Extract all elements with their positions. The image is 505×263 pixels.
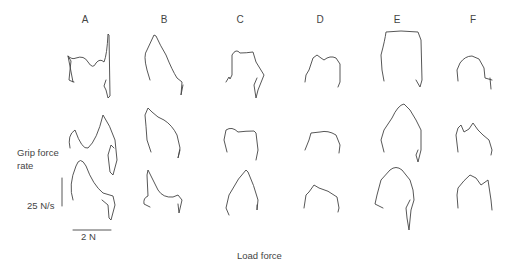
trace-e1: [381, 31, 422, 87]
force-traces: [0, 0, 505, 263]
trace-d1: [305, 55, 340, 87]
trace-a1: [68, 34, 110, 98]
trace-c1: [226, 51, 264, 98]
trace-a3: [71, 161, 115, 221]
trace-d2: [305, 131, 340, 153]
trace-c3: [226, 170, 258, 215]
trace-e3: [375, 168, 414, 231]
trace-f2: [456, 123, 492, 155]
trace-d3: [304, 185, 339, 212]
trace-f3: [457, 175, 492, 210]
trace-c2: [224, 128, 258, 160]
trace-b1: [145, 35, 183, 95]
trace-e2: [381, 104, 421, 162]
trace-b2: [145, 108, 180, 158]
trace-f1: [457, 56, 492, 89]
trace-b3: [144, 170, 182, 213]
